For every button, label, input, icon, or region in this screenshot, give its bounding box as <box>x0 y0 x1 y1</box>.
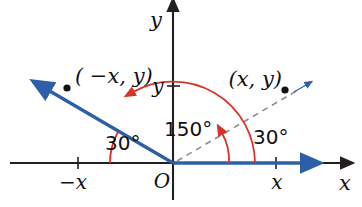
origin-label: O <box>154 169 170 193</box>
y-tick-label: y <box>151 74 164 98</box>
point-label-quadrant-i: (x, y) <box>229 67 282 91</box>
x-tick-negative-label: −x <box>59 170 87 194</box>
arc-reference-angle-right <box>222 133 229 163</box>
point-label-quadrant-ii: ( −x, y) <box>75 64 153 88</box>
x-tick-positive-label: x <box>271 170 282 194</box>
x-axis-label: x <box>339 171 351 195</box>
y-axis-label: y <box>149 8 163 32</box>
angle-label-rotation: 150° <box>164 117 212 141</box>
labels-group: y x O −x x y ( −x, y) (x, y) 30° 150° 30… <box>59 8 351 195</box>
point-marker-quadrant-i <box>281 86 288 93</box>
point-marker-quadrant-ii <box>63 84 70 91</box>
angle-label-reference-left: 30° <box>105 131 140 155</box>
reference-angle-figure: y x O −x x y ( −x, y) (x, y) 30° 150° 30… <box>0 0 362 207</box>
angle-label-reference-right: 30° <box>253 125 288 149</box>
reference-ray-arrow-tip <box>294 85 306 92</box>
